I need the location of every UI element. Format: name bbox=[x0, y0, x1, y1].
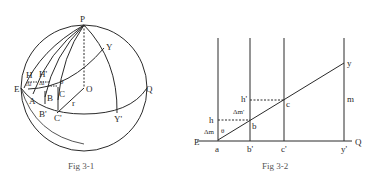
label-Q-2: Q bbox=[355, 137, 362, 147]
label-h-prime: h' bbox=[241, 94, 248, 104]
meridian-Y bbox=[84, 25, 117, 113]
label-E-2: E bbox=[194, 137, 200, 147]
label-c-prime: c' bbox=[281, 144, 287, 154]
figure-3-2-labels: y m h' c Δm' h b Δm θ E Q a b' c' y' Fig… bbox=[194, 58, 362, 171]
label-delta-m-prime: Δm' bbox=[233, 108, 244, 116]
label-H-prime: H' bbox=[39, 69, 47, 79]
caption-fig-3-2: Fig 3-2 bbox=[262, 161, 288, 171]
label-B-prime: B' bbox=[39, 109, 47, 119]
figure-3-2 bbox=[197, 38, 352, 141]
label-m: m bbox=[347, 94, 354, 104]
figure-3-1-labels: P Y H H' Δl Δl θ E O Q A B C r B' C' Y' … bbox=[14, 14, 153, 171]
label-P: P bbox=[80, 14, 85, 24]
label-a: a bbox=[215, 144, 219, 154]
rhumb-line-ay bbox=[218, 63, 344, 140]
label-h: h bbox=[209, 115, 214, 125]
figure-3-1 bbox=[21, 25, 147, 151]
label-Y: Y bbox=[106, 42, 113, 52]
label-theta-2: θ bbox=[221, 127, 225, 135]
label-y-prime: y' bbox=[341, 144, 348, 154]
label-b-prime: b' bbox=[247, 144, 254, 154]
label-r: r bbox=[72, 98, 75, 108]
label-delta-l-1: Δl bbox=[26, 81, 32, 87]
label-H: H bbox=[26, 70, 33, 80]
label-E: E bbox=[14, 84, 20, 94]
label-c: c bbox=[286, 99, 290, 109]
label-Y-prime: Y' bbox=[114, 114, 122, 124]
label-A: A bbox=[29, 96, 36, 106]
label-Q: Q bbox=[146, 84, 153, 94]
label-delta-l-2: Δl bbox=[39, 80, 45, 86]
caption-fig-3-1: Fig 3-1 bbox=[68, 161, 94, 171]
label-C-prime: C' bbox=[54, 113, 62, 123]
label-C: C bbox=[59, 89, 65, 99]
label-delta-m: Δm bbox=[204, 128, 215, 136]
diagram-canvas: P Y H H' Δl Δl θ E O Q A B C r B' C' Y' … bbox=[0, 0, 376, 182]
label-y: y bbox=[347, 58, 352, 68]
label-b: b bbox=[252, 121, 257, 131]
label-B: B bbox=[47, 93, 53, 103]
label-O: O bbox=[86, 84, 93, 94]
label-theta: θ bbox=[60, 78, 64, 86]
